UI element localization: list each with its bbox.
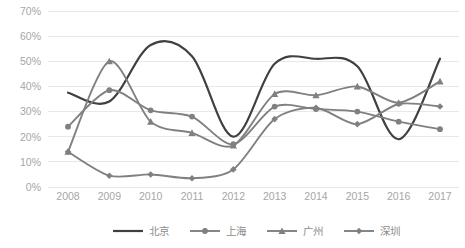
line-chart-figure: 0%10%20%30%40%50%60%70% 2008200920102011… (0, 0, 465, 248)
series-marker-2 (437, 126, 443, 132)
legend-label: 深圳 (380, 225, 400, 237)
y-axis-tick-label: 0% (26, 181, 41, 193)
y-axis-tick-label: 50% (20, 55, 41, 67)
series-marker-2 (106, 87, 112, 93)
x-axis-tick-label: 2010 (139, 190, 163, 202)
y-axis-tick-label: 20% (20, 131, 41, 143)
legend-item-3[interactable]: 广州 (267, 225, 323, 237)
series-marker-4 (106, 172, 113, 179)
legend-label: 上海 (226, 225, 247, 237)
series-marker-4 (354, 121, 361, 128)
x-axis-tick-label: 2017 (428, 190, 452, 202)
chart-legend: 北京上海广州深圳 (113, 225, 400, 237)
y-axis-tick-label: 40% (20, 80, 41, 92)
x-axis-tick-label: 2015 (346, 190, 370, 202)
y-axis-tick-label: 60% (20, 30, 41, 42)
x-axis-tick-label: 2012 (222, 190, 246, 202)
series-marker-2 (189, 114, 195, 120)
legend-item-1[interactable]: 北京 (113, 225, 169, 237)
series-marker-4 (189, 175, 196, 182)
x-axis-tick-labels: 2008200920102011201220132014201520162017 (56, 190, 452, 202)
x-axis-tick-label: 2016 (387, 190, 411, 202)
legend-label: 广州 (303, 225, 323, 237)
series-marker-4 (147, 171, 154, 178)
series-marker-2 (65, 124, 71, 130)
series-line-1 (68, 41, 440, 139)
x-axis-tick-label: 2014 (304, 190, 328, 202)
x-axis-tick-label: 2009 (98, 190, 122, 202)
legend-swatch-marker (202, 228, 208, 234)
y-axis-tick-labels: 0%10%20%30%40%50%60%70% (20, 5, 41, 193)
y-axis-tick-label: 30% (20, 105, 41, 117)
series-line-4 (68, 103, 440, 178)
x-axis-tick-label: 2008 (56, 190, 80, 202)
series-marker-2 (354, 109, 360, 115)
y-axis-tick-label: 70% (20, 5, 41, 17)
y-axis-tick-label: 10% (20, 156, 41, 168)
series-marker-2 (396, 119, 402, 125)
series-marker-2 (272, 104, 278, 110)
legend-item-2[interactable]: 上海 (190, 225, 247, 237)
series-marker-2 (148, 107, 154, 113)
legend-item-4[interactable]: 深圳 (344, 225, 400, 237)
series-marker-3 (436, 78, 443, 85)
x-axis-tick-label: 2013 (263, 190, 287, 202)
x-axis-tick-label: 2011 (181, 190, 204, 202)
series-marker-4 (437, 103, 444, 110)
legend-label: 北京 (149, 225, 169, 237)
chart-canvas: 0%10%20%30%40%50%60%70% 2008200920102011… (0, 0, 465, 248)
legend-swatch-marker (356, 228, 363, 235)
gridlines-group (48, 11, 459, 187)
